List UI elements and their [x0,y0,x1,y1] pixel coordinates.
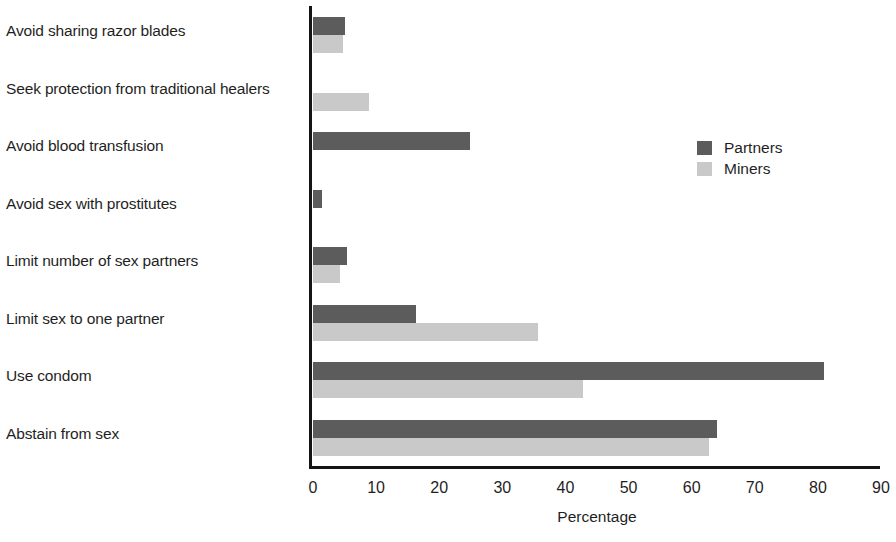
plot-area [313,6,881,466]
bar-partners-6 [313,362,824,380]
legend-label: Partners [724,139,783,157]
legend-swatch-icon [697,162,712,176]
x-tick-label: 80 [809,478,827,498]
category-label: Abstain from sex [6,425,300,443]
legend-item-miners[interactable]: Miners [697,158,783,179]
category-label: Use condom [6,367,300,385]
bar-miners-5 [313,323,538,341]
y-axis-line [309,6,312,466]
category-label: Limit sex to one partner [6,310,300,328]
bar-miners-4 [313,265,340,283]
x-tick-label: 70 [746,478,764,498]
category-axis-labels: Avoid sharing razor bladesSeek protectio… [0,0,300,466]
x-axis-tick-labels: 0102030405060708090 [313,478,881,502]
category-label: Limit number of sex partners [6,252,300,270]
x-tick-label: 10 [367,478,385,498]
bar-chart: Avoid sharing razor bladesSeek protectio… [0,0,896,542]
bar-partners-5 [313,305,416,323]
x-tick-label: 0 [309,478,318,498]
bar-miners-6 [313,380,583,398]
bar-partners-7 [313,420,717,438]
x-tick-label: 60 [683,478,701,498]
x-tick-label: 40 [557,478,575,498]
x-tick-label: 30 [493,478,511,498]
x-tick-label: 90 [872,478,890,498]
legend-item-partners[interactable]: Partners [697,137,783,158]
legend-swatch-icon [697,141,712,155]
bar-miners-0 [313,35,343,53]
category-label: Seek protection from traditional healers [6,80,300,98]
bar-partners-3 [313,190,322,208]
category-label: Avoid sharing razor blades [6,22,300,40]
bar-partners-4 [313,247,347,265]
x-tick-label: 20 [430,478,448,498]
category-label: Avoid blood transfusion [6,137,300,155]
x-tick-label: 50 [620,478,638,498]
legend-label: Miners [724,160,771,178]
category-label: Avoid sex with prostitutes [6,195,300,213]
bar-partners-2 [313,132,470,150]
bar-partners-0 [313,17,345,35]
bar-miners-1 [313,93,369,111]
x-axis-line [309,466,880,469]
bar-miners-7 [313,438,709,456]
x-axis-title: Percentage [313,508,881,526]
chart-legend: PartnersMiners [697,137,783,179]
